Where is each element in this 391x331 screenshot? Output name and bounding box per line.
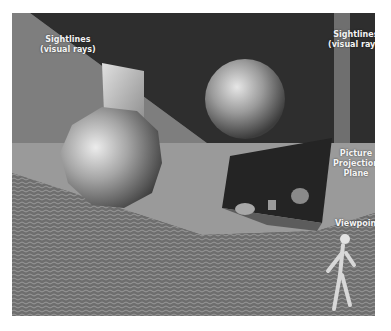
label-sightlines-left: Sightlines (visual rays) — [40, 35, 96, 55]
label-line: (visual rays) — [40, 45, 96, 55]
label-viewpoint: Viewpoint — [335, 219, 375, 229]
scene-graphic — [12, 13, 375, 316]
label-line: Viewpoint — [335, 219, 375, 229]
label-line: Plane — [333, 169, 375, 179]
perspective-illustration: Sightlines (visual rays) Sightlines (vis… — [12, 13, 375, 316]
label-line: Sightlines — [40, 35, 96, 45]
label-picture-projection-plane: Picture Projection Plane — [333, 149, 375, 179]
projected-sphere-right — [291, 188, 309, 204]
label-line: Projection — [333, 159, 375, 169]
projected-cube — [268, 200, 276, 210]
projected-sphere-left — [235, 203, 255, 215]
label-sightlines-right: Sightlines (visual rays) — [328, 30, 375, 50]
label-line: Picture — [333, 149, 375, 159]
label-line: (visual rays) — [328, 40, 375, 50]
label-line: Sightlines — [328, 30, 375, 40]
sphere-back — [205, 59, 285, 139]
